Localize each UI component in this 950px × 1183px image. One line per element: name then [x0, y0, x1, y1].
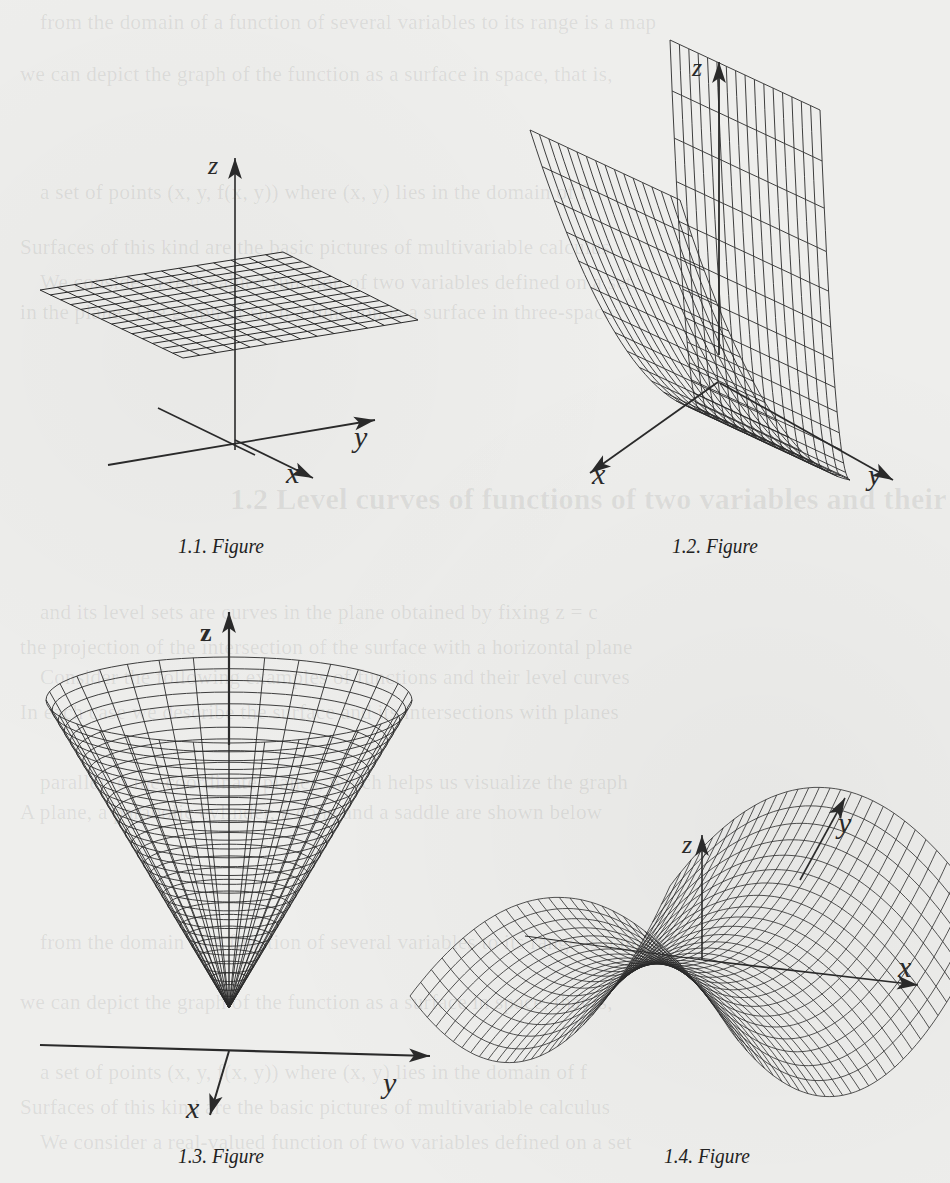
- fig3-y-label: y: [383, 1068, 396, 1098]
- fig1-y-label: y: [354, 422, 367, 452]
- fig3-meridian-line: [60, 684, 229, 1009]
- figure-caption-1-4: 1.4. Figure: [664, 1143, 750, 1169]
- fig3-meridian-line: [229, 708, 409, 1008]
- fig4-grid-line: [661, 806, 950, 939]
- fig3-x-label: x: [186, 1093, 199, 1123]
- fig4-z-label: z: [682, 832, 692, 858]
- fig4-grid-line: [497, 963, 817, 1096]
- fig4-grid-line: [442, 848, 702, 1025]
- fig2-grid-line: [558, 53, 728, 423]
- fig2-grid-line: [530, 40, 700, 410]
- fig3-y-axis: [40, 1045, 430, 1056]
- fig1-grid-line: [179, 268, 317, 336]
- fig1-grid-line: [109, 279, 250, 347]
- fig3-meridian-line: [229, 670, 358, 1008]
- fig2-x-label: x: [592, 459, 605, 489]
- fig3-meridian-line: [229, 660, 299, 1008]
- fig1-grid-line: [283, 252, 418, 320]
- fig4-grid-line: [566, 942, 886, 1075]
- fig1-x-label: x: [286, 458, 299, 488]
- fig3-meridian-line: [159, 660, 229, 1008]
- figure-1-1-plane-surface: [0, 0, 950, 1183]
- fig3-meridian-line: [229, 676, 381, 1008]
- fig4-grid-line: [514, 964, 834, 1097]
- fig1-grid-line: [144, 274, 284, 342]
- fig1-grid-line: [40, 290, 183, 358]
- fig4-x-label: x: [898, 952, 911, 982]
- fig3-meridian-line: [229, 684, 398, 1009]
- fig1-grid-line: [57, 287, 199, 355]
- fig1-grid-line: [266, 255, 402, 323]
- fig4-grid-line: [523, 963, 843, 1096]
- figure-caption-1-3: 1.3. Figure: [178, 1143, 264, 1169]
- fig1-grid-line: [75, 285, 217, 353]
- fig3-meridian-line: [229, 692, 409, 1008]
- fig2-y-label: y: [868, 460, 881, 490]
- fig1-grid-line: [92, 282, 233, 350]
- fig1-grid-line: [248, 257, 384, 325]
- fig4-grid-line: [474, 819, 734, 996]
- fig1-grid-line: [231, 260, 368, 328]
- fig1-y-axis: [108, 420, 375, 465]
- fig4-y-label: y: [838, 808, 851, 838]
- fig1-z-label: z: [208, 153, 218, 179]
- fig3-meridian-line: [50, 692, 230, 1008]
- figure-caption-1-1: 1.1. Figure: [178, 533, 264, 559]
- figure-caption-1-2: 1.2. Figure: [672, 533, 758, 559]
- fig2-x-axis: [590, 382, 718, 473]
- fig4-grid-line: [479, 958, 799, 1091]
- fig4-grid-line: [570, 788, 830, 965]
- fig1-grid-line: [214, 263, 351, 331]
- fig3-meridian-line: [229, 740, 299, 1008]
- fig3-z-label: z: [200, 620, 212, 646]
- fig2-z-label: z: [692, 55, 702, 81]
- fig3-meridian-line: [159, 740, 229, 1008]
- fig4-grid-line: [410, 886, 670, 1063]
- fig2-grid-line: [568, 58, 738, 428]
- fig4-grid-line: [583, 926, 903, 1059]
- fig4-grid-line: [559, 787, 819, 964]
- fig1-grid-line: [127, 276, 267, 344]
- fig1-grid-line: [162, 271, 301, 339]
- fig1-grid-line: [196, 266, 334, 334]
- fig3-meridian-line: [100, 670, 229, 1008]
- fig4-grid-line: [505, 964, 825, 1097]
- fig3-meridian-line: [77, 676, 229, 1008]
